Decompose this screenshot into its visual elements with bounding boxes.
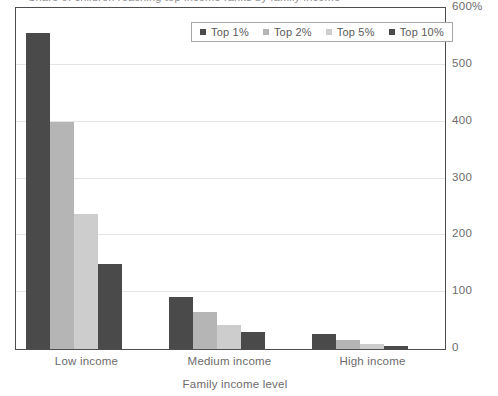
x-axis-category-label: Medium income (158, 355, 301, 367)
bar-chart: Share of children reaching top income ra… (0, 0, 498, 396)
y-axis: 600%5004003002001000 (452, 0, 498, 396)
bar (193, 312, 217, 349)
legend-entry[interactable]: Top 2% (263, 26, 312, 38)
bar (336, 340, 360, 349)
bar (312, 334, 336, 349)
y-axis-tick: 0 (452, 341, 459, 353)
bar (217, 325, 241, 349)
x-axis: Low incomeMedium incomeHigh income (15, 355, 446, 375)
legend-entry[interactable]: Top 10% (389, 26, 444, 38)
chart-legend: Top 1%Top 2%Top 5%Top 10% (191, 22, 453, 42)
legend-swatch-icon (389, 29, 395, 35)
legend-label: Top 10% (400, 26, 444, 38)
bar (98, 264, 122, 349)
bar (360, 344, 384, 349)
x-axis-category-label: Low income (15, 355, 158, 367)
y-axis-tick: 100 (452, 284, 472, 296)
legend-label: Top 5% (337, 26, 375, 38)
y-axis-tick: 400 (452, 114, 472, 126)
plot-area (15, 7, 446, 350)
y-axis-tick: 600% (452, 0, 483, 12)
legend-swatch-icon (263, 29, 269, 35)
legend-entry[interactable]: Top 1% (200, 26, 249, 38)
legend-swatch-icon (326, 29, 332, 35)
legend-label: Top 2% (274, 26, 312, 38)
y-axis-tick: 500 (452, 57, 472, 69)
legend-swatch-icon (200, 29, 206, 35)
bar (241, 332, 265, 349)
bar (169, 297, 193, 349)
bar (384, 346, 408, 349)
y-axis-tick: 300 (452, 171, 472, 183)
bars-layer (16, 8, 445, 349)
y-axis-tick: 200 (452, 227, 472, 239)
x-axis-category-label: High income (301, 355, 444, 367)
bar (74, 214, 98, 349)
bar (50, 122, 74, 349)
x-axis-title: Family income level (0, 378, 470, 390)
legend-label: Top 1% (211, 26, 249, 38)
chart-title-clipped: Share of children reaching top income ra… (28, 0, 340, 3)
legend-entry[interactable]: Top 5% (326, 26, 375, 38)
bar (26, 33, 50, 349)
